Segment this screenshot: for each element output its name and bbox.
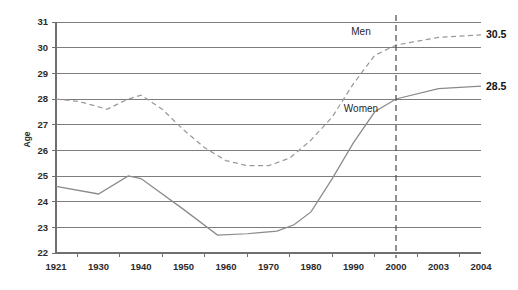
x-tick-label-1940: 1940 (130, 261, 151, 272)
line-chart: 22232425262728293031 1921193019401950196… (0, 0, 518, 290)
series-line-men (56, 35, 481, 166)
y-tick-labels-group: 22232425262728293031 (37, 16, 48, 258)
x-tick-label-1970: 1970 (258, 261, 279, 272)
x-tick-labels-group: 1921193019401950196019701980199020002003… (45, 261, 492, 272)
data-series-group (56, 35, 481, 235)
y-tick-label-28: 28 (37, 93, 48, 104)
x-tick-label-1930: 1930 (88, 261, 109, 272)
x-tick-label-1950: 1950 (173, 261, 194, 272)
axes-group (56, 22, 481, 253)
y-axis-title: Age (22, 131, 32, 147)
x-tick-label-1990: 1990 (343, 261, 364, 272)
y-tick-label-24: 24 (37, 196, 48, 207)
x-tick-label-1980: 1980 (300, 261, 321, 272)
y-tick-label-27: 27 (37, 119, 48, 130)
y-tick-label-29: 29 (37, 68, 48, 79)
x-tick-label-2003: 2003 (428, 261, 449, 272)
gridlines-group (56, 22, 481, 227)
annotations-group: MenWomen30.528.5 (344, 26, 507, 114)
tickmarks-group (52, 22, 460, 257)
x-tick-label-2004: 2004 (470, 261, 492, 272)
value-label-28.5: 28.5 (486, 80, 507, 92)
chart-container: 22232425262728293031 1921193019401950196… (0, 0, 518, 290)
y-tick-label-25: 25 (37, 170, 48, 181)
y-tick-label-31: 31 (37, 16, 48, 27)
x-tick-label-1960: 1960 (215, 261, 236, 272)
x-tick-label-1921: 1921 (45, 261, 67, 272)
x-tick-label-2000: 2000 (385, 261, 406, 272)
value-label-30.5: 30.5 (486, 28, 507, 40)
y-tick-label-26: 26 (37, 145, 48, 156)
y-tick-label-30: 30 (37, 42, 48, 53)
series-label-men: Men (351, 26, 370, 37)
y-tick-label-23: 23 (37, 222, 48, 233)
series-line-women (56, 86, 481, 235)
series-label-women: Women (344, 103, 378, 114)
y-tick-label-22: 22 (37, 247, 48, 258)
